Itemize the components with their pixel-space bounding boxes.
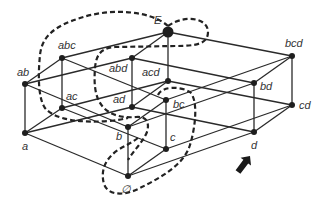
node-d [251, 129, 257, 135]
node-label-ad: ad [113, 93, 126, 105]
node-ab [22, 81, 28, 87]
edge-cd-c [166, 105, 292, 149]
node-label-empty: ∅ [121, 183, 131, 195]
edge-E-abc [62, 32, 168, 58]
node-cd [289, 102, 295, 108]
node-label-abc: abc [58, 39, 76, 51]
node-label-ac: ac [66, 90, 78, 102]
node-label-a: a [22, 140, 28, 152]
edge-bcd-bd [254, 56, 292, 83]
node-abd [129, 55, 135, 61]
node-label-d: d [251, 139, 258, 151]
edge-layer [25, 32, 292, 176]
node-bd [251, 80, 257, 86]
node-label-c: c [170, 131, 176, 143]
node-label-E: E [154, 14, 162, 26]
node-bc [163, 97, 169, 103]
node-label-b: b [116, 130, 122, 142]
edge-cd-d [254, 105, 292, 132]
node-acd [165, 78, 171, 84]
node-bcd [289, 53, 295, 59]
node-label-bd: bd [260, 80, 273, 92]
edge-a-empty [25, 133, 128, 176]
lattice-canvas: Eabcabdacdbcdabacadbcbdcdabcd∅ [0, 0, 327, 205]
node-empty [125, 173, 131, 179]
node-a [22, 130, 28, 136]
outer-region [39, 12, 208, 160]
node-label-bc: bc [173, 98, 185, 110]
edge-ac-a [25, 108, 62, 133]
node-ad [129, 104, 135, 110]
node-ac [59, 105, 65, 111]
boolean-lattice-diagram: Eabcabdacdbcdabacadbcbdcdabcd∅ [0, 0, 327, 205]
edge-E-bcd [168, 32, 292, 56]
arrow-icon [236, 156, 251, 174]
node-label-ab: ab [17, 66, 29, 78]
node-label-bcd: bcd [285, 37, 304, 49]
edge-bc-b [128, 100, 166, 127]
node-c [163, 146, 169, 152]
node-label-cd: cd [299, 99, 312, 111]
node-abc [59, 55, 65, 61]
node-b [125, 124, 131, 130]
label-layer: Eabcabdacdbcdabacadbcbdcdabcd∅ [17, 14, 312, 195]
node-label-acd: acd [142, 66, 161, 78]
node-label-abd: abd [109, 62, 128, 74]
arrow-layer [236, 156, 251, 174]
node-E [163, 27, 174, 38]
